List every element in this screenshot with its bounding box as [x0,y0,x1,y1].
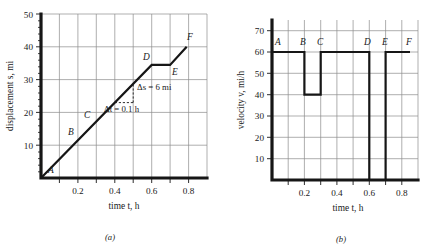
chart-a-ytick-50: 50 [24,10,34,20]
chart-a-ylabel: displacement s, mi [5,61,15,131]
chart-b-ytick-40: 40 [255,90,265,100]
chart-b-point-label-A: A [274,37,281,47]
chart-b-point-label-F: F [405,37,412,47]
chart-b-gridlines [272,20,418,180]
figure-container: 10 20 30 40 50 0.2 0.4 0.6 0.8 time t, h… [0,0,436,252]
chart-b-ytick-30: 30 [255,111,265,121]
chart-b-xtick-02: 0.2 [299,188,311,198]
chart-b-ytick-10: 10 [255,154,265,164]
chart-a-xlabel: time t, h [109,201,140,211]
chart-a-point-label-C: C [84,110,91,120]
chart-b-xlabel: time t, h [333,203,364,213]
chart-a-svg: 10 20 30 40 50 0.2 0.4 0.6 0.8 time t, h… [0,0,218,252]
chart-b-xtick-06: 0.6 [364,188,376,198]
chart-a-annotation-dt: Δt = 0.1 h [104,104,140,114]
chart-b-xtick-08: 0.8 [396,188,408,198]
chart-a-ytick-10: 10 [24,141,34,151]
panel-a: 10 20 30 40 50 0.2 0.4 0.6 0.8 time t, h… [0,0,218,252]
chart-a-ytick-40: 40 [24,42,34,52]
chart-b-ytick-60: 60 [255,47,265,57]
panel-b: 10 20 30 40 50 60 70 0.2 0.4 0.6 0.8 tim… [218,0,436,252]
chart-b-ytick-50: 50 [255,69,265,79]
chart-b-ytick-20: 20 [255,133,265,143]
chart-b-ylabel: velocity v, mi/h [236,70,246,129]
chart-a-point-label-D: D [142,52,150,62]
chart-a-ytick-30: 30 [24,75,34,85]
chart-a-caption: (a) [105,232,115,242]
chart-b-point-label-E: E [381,37,388,47]
chart-a-xtick-06: 0.6 [146,186,158,196]
chart-b-axes [272,20,418,180]
chart-b-svg: 10 20 30 40 50 60 70 0.2 0.4 0.6 0.8 tim… [218,0,436,252]
chart-b-point-label-C: C [317,37,324,47]
chart-b-xtick-04: 0.4 [331,188,343,198]
chart-b-point-label-D: D [363,37,371,47]
chart-a-point-label-A: A [47,165,54,175]
chart-a-point-label-F: F [186,32,193,42]
chart-a-ytick-20: 20 [24,108,34,118]
chart-b-ytick-70: 70 [255,26,265,36]
chart-a-point-label-B: B [68,127,74,137]
chart-b-caption: (b) [336,234,346,244]
chart-a-xtick-04: 0.4 [109,186,121,196]
chart-a-annotation-ds: Δs = 6 mi [137,82,172,92]
chart-b-point-label-B: B [300,37,306,47]
chart-a-point-label-E: E [171,67,178,77]
chart-a-xtick-02: 0.2 [72,186,84,196]
chart-a-xtick-08: 0.8 [183,186,195,196]
